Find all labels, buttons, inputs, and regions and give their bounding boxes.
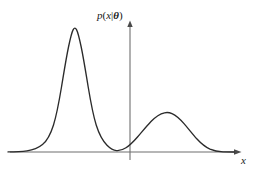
plot-canvas xyxy=(0,0,262,176)
x-axis-label: x xyxy=(241,155,246,166)
y-axis-arrow-icon xyxy=(127,21,132,28)
y-axis-label-close-paren: ) xyxy=(119,9,123,21)
density-figure: p(x|θ) x xyxy=(0,0,262,176)
y-axis-label: p(x|θ) xyxy=(97,10,123,21)
density-curve xyxy=(8,28,234,152)
